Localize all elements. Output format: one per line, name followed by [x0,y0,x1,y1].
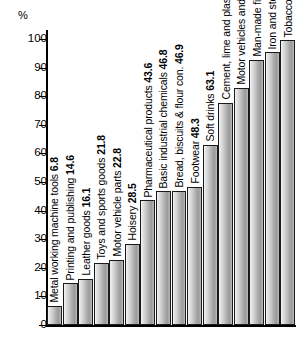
bar-label-name: Hoisery [126,203,138,240]
plot-area: Metal working machine tools 6.8Printing … [47,30,296,325]
bar[interactable] [280,40,295,325]
bar-label-value: 46.8 [157,49,169,69]
y-tick-row: 70 [0,125,47,126]
y-tick-row: 90 [0,68,47,69]
bar[interactable] [249,60,264,325]
bar-label: Cement, lime and plaster 77.8 [220,0,231,100]
bar[interactable] [265,52,280,325]
y-tick-label: 40 [11,205,47,217]
bar-label-name: Tobacco [281,0,293,37]
bar-label-value: 14.6 [64,155,76,175]
bar-label-name: Bread, biscuits & flour con. [172,64,184,187]
bar-label: Basic industrial chemicals 46.8 [158,49,169,188]
bar[interactable] [172,191,187,325]
bar-label-value: 6.8 [48,157,60,171]
bar-label-name: Leather goods [79,208,91,276]
bar-label: Man-made fibres 92.7 [251,0,262,57]
bar-label-name: Toys and sports goods [95,155,107,260]
bar[interactable] [234,88,249,325]
bar-label-name: Metal working machine tools [48,171,60,302]
y-tick-label: 60 [11,147,47,159]
bar[interactable] [78,279,93,325]
y-tick-label: 80 [11,90,47,102]
bar[interactable] [218,103,233,326]
bar-label-name: Motor vehicle parts [110,168,122,257]
bar-label: Printing and publishing 14.6 [65,155,76,280]
bar[interactable] [47,306,62,325]
y-tick-row: 100 [0,39,47,40]
y-tick-row: 0 [0,325,47,326]
bar-label: Toys and sports goods 21.8 [96,135,107,260]
bar-label-value: 63.1 [204,71,216,91]
y-tick-label: 70 [11,119,47,131]
bar-label-name: Iron and steel industry [266,0,278,49]
y-tick-row: 50 [0,182,47,183]
bar-label-value: 28.5 [126,183,138,203]
bar-label-name: Man-made fibres [250,0,262,57]
bar-chart: % 0102030405060708090100 Metal working m… [0,0,303,349]
bar-label: Leather goods 16.1 [80,188,91,276]
bar-label-name: Basic industrial chemicals [157,69,169,188]
y-tick-label: 100 [11,33,47,45]
y-tick-row: 40 [0,211,47,212]
x-axis-line [46,325,296,327]
y-tick-label: 20 [11,262,47,274]
bar-label: Pharmaceutical products 43.6 [142,63,153,198]
bar-label: Footwear 48.3 [189,119,200,184]
bar-label-value: 43.6 [141,63,153,83]
bar-label-name: Motor vehicles and engines [235,0,247,85]
bar[interactable] [140,200,155,325]
bar[interactable] [94,263,109,325]
bar-label-value: 21.8 [95,135,107,155]
bar-label: Bread, biscuits & flour con. 46.9 [173,45,184,188]
y-axis-unit-label: % [18,9,28,21]
bar-label-name: Footwear [188,139,200,184]
bar-label: Iron and steel industry 95.4 [267,0,278,49]
bar-label-value: 46.9 [172,45,184,65]
bar[interactable] [187,187,202,325]
y-tick-row: 60 [0,153,47,154]
bar-label: Metal working machine tools 6.8 [49,157,60,302]
bar[interactable] [63,283,78,325]
y-tick-label: 10 [11,290,47,302]
y-tick-label: 30 [11,233,47,245]
bar-label-value: 22.8 [110,148,122,168]
bar-label: Tobacco 99.5 [282,0,293,37]
y-tick-label: 90 [11,62,47,74]
y-tick-row: 80 [0,96,47,97]
bar[interactable] [109,260,124,325]
bar-label: Soft drinks 63.1 [205,71,216,142]
y-tick-label: 0 [11,319,47,331]
bar[interactable] [156,191,171,325]
bar-label-name: Cement, lime and plaster [219,0,231,100]
y-tick-label: 50 [11,176,47,188]
bar-label-name: Pharmaceutical products [141,82,153,197]
bar-label-value: 48.3 [188,119,200,139]
y-tick-row: 10 [0,296,47,297]
bar-label: Motor vehicles and engines 83.0 [236,0,247,85]
y-tick-row: 30 [0,239,47,240]
bar[interactable] [125,244,140,326]
bar-label-name: Printing and publishing [64,175,76,281]
bar-label-value: 16.1 [79,188,91,208]
bar-label: Hoisery 28.5 [127,183,138,240]
y-tick-row: 20 [0,268,47,269]
bar[interactable] [203,145,218,325]
bar-label: Motor vehicle parts 22.8 [111,148,122,256]
bar-label-name: Soft drinks [204,91,216,142]
